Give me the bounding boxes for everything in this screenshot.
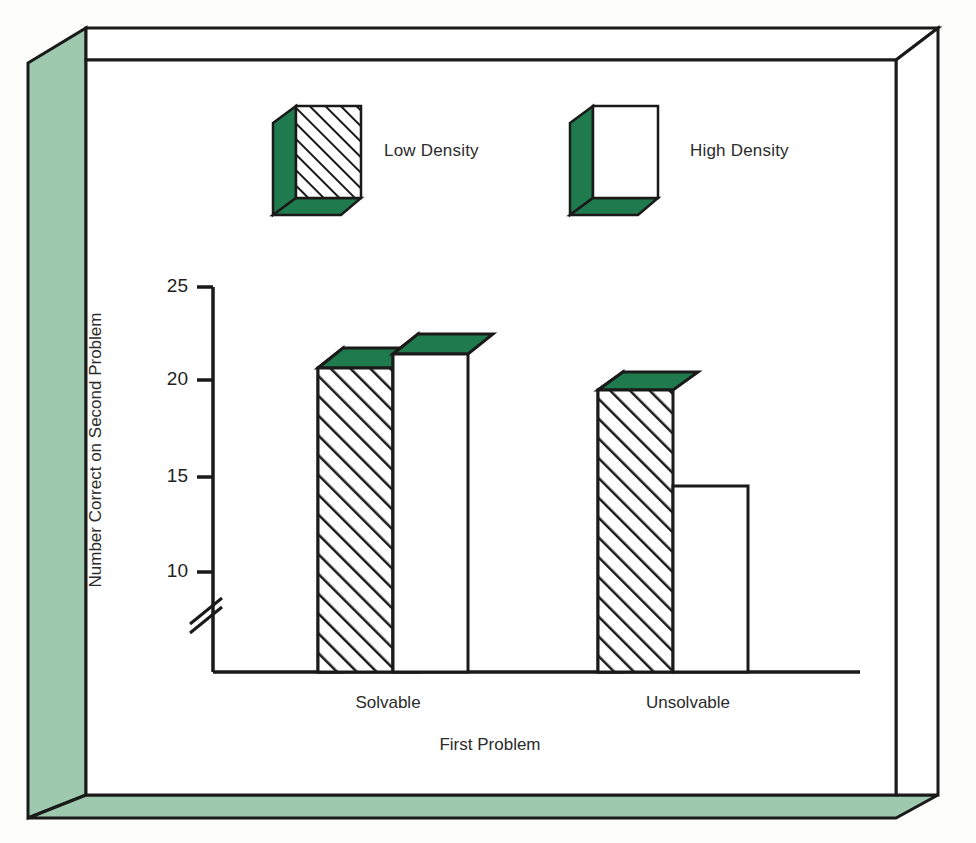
- y-tick-label-25: 25: [148, 275, 188, 297]
- bar-front-face: [318, 368, 393, 672]
- bar-front-face: [393, 354, 468, 672]
- x-axis-title: First Problem: [330, 735, 650, 755]
- bar-front-face: [673, 486, 748, 672]
- y-tick-label-15: 15: [148, 465, 188, 487]
- x-tick-label-unsolvable: Unsolvable: [578, 693, 798, 713]
- y-tick-label-10: 10: [148, 560, 188, 582]
- y-tick-label-20: 20: [148, 368, 188, 390]
- bar-top-face: [393, 334, 493, 354]
- plot-area: [0, 0, 976, 843]
- bar-solvable-high-density: [393, 334, 493, 672]
- bar-front-face: [598, 390, 673, 672]
- x-tick-label-solvable: Solvable: [278, 693, 498, 713]
- figure-canvas: Low Density High Density: [0, 0, 976, 843]
- bar-top-face: [598, 372, 698, 390]
- axis-break-icon: [190, 598, 222, 633]
- y-axis-title: Number Correct on Second Problem: [86, 290, 106, 610]
- bar-unsolvable-high-density: [673, 486, 748, 672]
